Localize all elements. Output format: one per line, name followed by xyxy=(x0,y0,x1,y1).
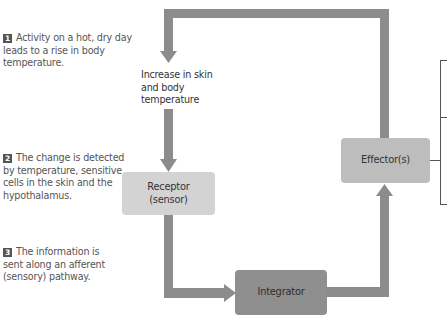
step-number-badge: 1 xyxy=(3,34,12,43)
integrator-box: Integrator xyxy=(235,270,327,315)
arrow-top-bar xyxy=(164,9,389,18)
arrow-stimulus-to-receptor xyxy=(164,109,173,161)
stimulus-line: temperature xyxy=(141,94,221,107)
receptor-box: Receptor (sensor) xyxy=(122,172,215,215)
arrow-receptor-to-integrator xyxy=(164,288,226,298)
arrowhead-down-stimulus xyxy=(160,51,177,63)
step-text: The information is sent along an afferen… xyxy=(3,246,105,282)
receptor-label: Receptor xyxy=(147,181,189,194)
step-3: 3The information is sent along an affere… xyxy=(3,246,121,284)
effector-bracket xyxy=(430,60,447,205)
arrow-receptor-down xyxy=(164,215,173,298)
effector-label: Effector(s) xyxy=(361,154,410,167)
effector-box: Effector(s) xyxy=(341,138,430,183)
stimulus-line: Increase in skin xyxy=(141,69,221,82)
integrator-label: Integrator xyxy=(257,286,304,299)
step-text: The change is detected by temperature, s… xyxy=(3,152,124,201)
step-number-badge: 3 xyxy=(3,248,12,257)
arrow-integrator-right xyxy=(327,287,389,297)
arrow-integrator-to-effector xyxy=(380,194,389,297)
stimulus-line: and body xyxy=(141,82,221,95)
step-number-badge: 2 xyxy=(3,154,12,163)
arrow-top-to-stimulus xyxy=(164,9,173,53)
step-2: 2The change is detected by temperature, … xyxy=(3,152,133,202)
stimulus-label: Increase in skin and body temperature xyxy=(141,69,221,107)
arrow-effector-to-top xyxy=(380,9,389,139)
receptor-sublabel: (sensor) xyxy=(147,194,189,207)
arrowhead-down-receptor xyxy=(160,159,177,172)
step-text: Activity on a hot, dry day leads to a ri… xyxy=(3,32,132,68)
step-1: 1Activity on a hot, dry day leads to a r… xyxy=(3,32,133,70)
arrowhead-up-effector xyxy=(376,184,393,196)
